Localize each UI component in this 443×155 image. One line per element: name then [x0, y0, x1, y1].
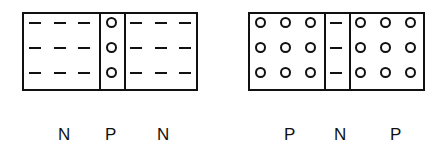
- hole-circle: [280, 67, 291, 78]
- hole-circle: [355, 17, 366, 28]
- label-pnp-base: N: [334, 125, 346, 145]
- hole-circle: [305, 42, 316, 53]
- electron-dash: [29, 47, 41, 49]
- electron-dash: [78, 72, 90, 74]
- hole-circle: [106, 17, 117, 28]
- hole-circle: [106, 42, 117, 53]
- electron-dash: [330, 47, 342, 49]
- label-npn-collector: N: [157, 125, 169, 145]
- electron-dash: [179, 22, 191, 24]
- label-pnp-emitter: P: [284, 125, 295, 145]
- electron-dash: [330, 72, 342, 74]
- electron-dash: [330, 22, 342, 24]
- electron-dash: [78, 22, 90, 24]
- hole-circle: [255, 67, 266, 78]
- electron-dash: [155, 47, 167, 49]
- pnp-diagram: [248, 12, 425, 91]
- label-pnp-collector: P: [390, 125, 401, 145]
- electron-dash: [78, 47, 90, 49]
- hole-circle: [255, 17, 266, 28]
- junction-line: [349, 14, 351, 89]
- electron-dash: [155, 22, 167, 24]
- electron-dash: [130, 47, 142, 49]
- electron-dash: [29, 72, 41, 74]
- electron-dash: [29, 22, 41, 24]
- hole-circle: [380, 17, 391, 28]
- junction-line: [99, 14, 101, 89]
- hole-circle: [280, 17, 291, 28]
- npn-diagram: [22, 12, 198, 91]
- electron-dash: [130, 72, 142, 74]
- hole-circle: [405, 42, 416, 53]
- hole-circle: [305, 17, 316, 28]
- hole-circle: [355, 67, 366, 78]
- electron-dash: [179, 47, 191, 49]
- electron-dash: [179, 72, 191, 74]
- junction-line: [124, 14, 126, 89]
- label-npn-base: P: [105, 125, 116, 145]
- hole-circle: [305, 67, 316, 78]
- hole-circle: [405, 17, 416, 28]
- hole-circle: [380, 42, 391, 53]
- hole-circle: [380, 67, 391, 78]
- electron-dash: [54, 47, 66, 49]
- hole-circle: [280, 42, 291, 53]
- electron-dash: [54, 22, 66, 24]
- junction-line: [324, 14, 326, 89]
- electron-dash: [130, 22, 142, 24]
- hole-circle: [255, 42, 266, 53]
- label-npn-emitter: N: [58, 125, 70, 145]
- hole-circle: [405, 67, 416, 78]
- hole-circle: [106, 67, 117, 78]
- electron-dash: [155, 72, 167, 74]
- hole-circle: [355, 42, 366, 53]
- electron-dash: [54, 72, 66, 74]
